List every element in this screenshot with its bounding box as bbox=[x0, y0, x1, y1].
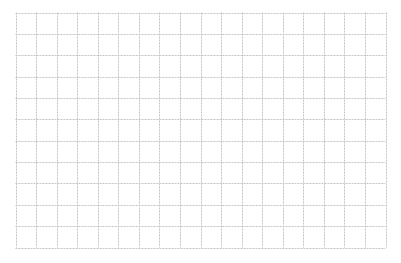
dotted-grid bbox=[0, 0, 401, 263]
